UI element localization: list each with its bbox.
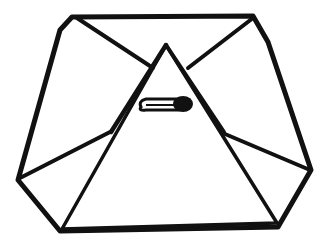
- safety-pin-icon: [140, 96, 193, 112]
- diaper-drawing: [0, 0, 328, 252]
- diaper-illustration: [0, 0, 328, 252]
- fold-line-bottom-left: [20, 131, 112, 178]
- triangle-right-edge-thick: [166, 45, 224, 132]
- fold-line-top-right: [188, 18, 253, 68]
- front-triangle-flap: [62, 45, 277, 229]
- fold-line-top-left: [77, 18, 153, 68]
- fold-line-bottom-right: [225, 134, 310, 170]
